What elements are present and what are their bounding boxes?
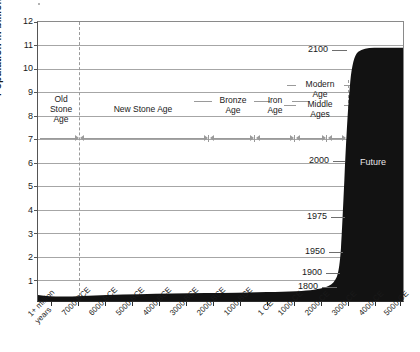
y-tick-label-2: 2	[11, 253, 33, 262]
leader-2000	[333, 161, 345, 162]
annotation-2000: 2000	[289, 156, 329, 165]
y-tick-label-8: 8	[11, 112, 33, 121]
y-tick-label-5: 5	[11, 182, 33, 191]
y-tick-label-4: 4	[11, 206, 33, 215]
y-tick-label-10: 10	[11, 64, 33, 73]
annotation-1900: 1900	[282, 268, 322, 277]
y-tick-label-1: 1	[11, 277, 33, 286]
leader-1975	[331, 217, 345, 218]
annotation-2100: 2100	[288, 45, 328, 54]
y-tick-label-12: 12	[11, 17, 33, 26]
y-tick-label-6: 6	[11, 159, 33, 168]
stray-dot	[38, 3, 40, 5]
population-area-series	[38, 22, 403, 301]
annotation-1950: 1950	[285, 247, 325, 256]
y-tick-label-3: 3	[11, 230, 33, 239]
y-tick-label-7: 7	[11, 135, 33, 144]
plot-area: Old Stone Age New Stone Age Bronze Age I…	[37, 21, 404, 302]
annotation-1975: 1975	[287, 212, 327, 221]
population-chart: Population in billions 12 11 10 9 8 7 6 …	[0, 0, 420, 352]
y-axis-title: Population in billions	[0, 0, 3, 96]
future-region-label: Future	[360, 157, 386, 167]
y-tick-label-11: 11	[11, 41, 33, 50]
leader-2100	[332, 50, 347, 51]
leader-1900	[326, 273, 340, 274]
leader-1950	[329, 252, 343, 253]
y-tick-label-9: 9	[11, 88, 33, 97]
